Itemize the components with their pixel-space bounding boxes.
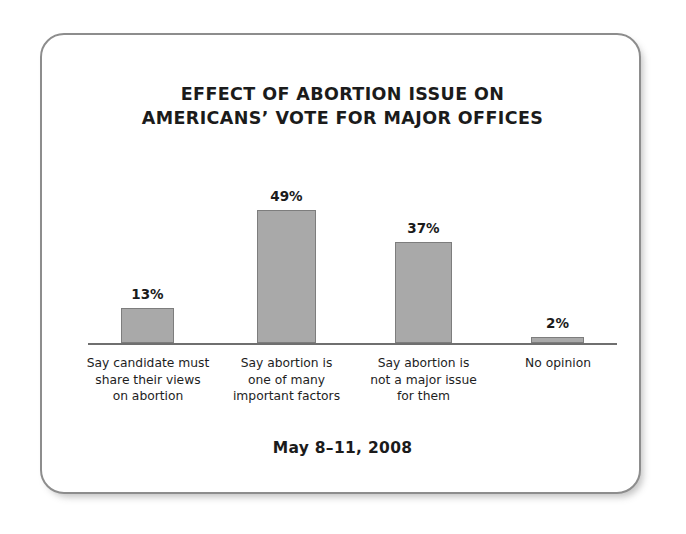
bar-2 [395,242,452,343]
bar-1 [257,210,316,343]
bar-value-3: 2% [531,315,584,332]
date-caption: May 8–11, 2008 [42,439,643,457]
chart-frame: EFFECT OF ABORTION ISSUE ON AMERICANS’ V… [40,33,641,494]
bar-value-1: 49% [257,188,316,205]
bar-value-2: 37% [395,220,452,237]
plot-area: 13% 49% 37% 2% Say candidate must share … [42,35,643,496]
category-label-3-line-0: No opinion [488,355,628,372]
category-label-2: Say abortion is not a major issue for th… [342,355,505,405]
bar-0 [121,308,174,343]
category-label-2-line-2: for them [342,388,505,405]
category-label-3: No opinion [488,355,628,372]
bar-value-0: 13% [121,286,174,303]
x-axis-line [88,343,617,345]
category-label-2-line-1: not a major issue [342,372,505,389]
chart-image: EFFECT OF ABORTION ISSUE ON AMERICANS’ V… [0,0,686,534]
category-label-2-line-0: Say abortion is [342,355,505,372]
